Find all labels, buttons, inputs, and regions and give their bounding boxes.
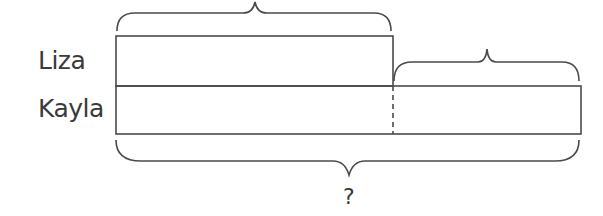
top-brace [117, 2, 391, 31]
liza-bar [116, 36, 393, 86]
total-brace [116, 140, 579, 175]
kayla-bar [116, 86, 581, 134]
extra-brace [394, 49, 579, 81]
total-question-mark: ? [343, 184, 355, 209]
tape-diagram [0, 0, 603, 216]
